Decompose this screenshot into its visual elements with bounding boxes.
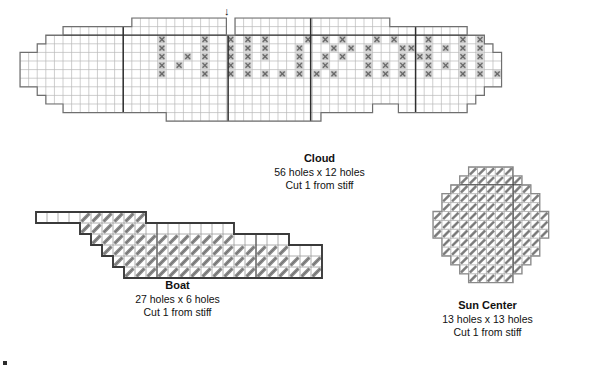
cloud-instruction: Cut 1 from stiff bbox=[237, 179, 402, 192]
sun-center-chart-svg bbox=[432, 166, 550, 284]
cloud-chart-svg bbox=[19, 17, 503, 122]
boat-chart-svg bbox=[35, 211, 334, 279]
cloud-pattern-chart: ↓ bbox=[19, 17, 503, 122]
cloud-dimensions: 56 holes x 12 holes bbox=[237, 166, 402, 179]
sun-center-title: Sun Center bbox=[405, 299, 570, 312]
sun-center-caption: Sun Center 13 holes x 13 holes Cut 1 fro… bbox=[405, 299, 570, 339]
cloud-caption: Cloud 56 holes x 12 holes Cut 1 from sti… bbox=[237, 152, 402, 192]
cloud-title: Cloud bbox=[237, 152, 402, 165]
sun-center-pattern-chart bbox=[432, 166, 550, 284]
boat-dimensions: 27 holes x 6 holes bbox=[95, 293, 260, 306]
cloud-center-arrow-icon: ↓ bbox=[224, 7, 230, 16]
page-corner-mark bbox=[3, 361, 7, 365]
boat-title: Boat bbox=[95, 279, 260, 292]
boat-instruction: Cut 1 from stiff bbox=[95, 306, 260, 319]
boat-caption: Boat 27 holes x 6 holes Cut 1 from stiff bbox=[95, 279, 260, 319]
boat-pattern-chart bbox=[35, 211, 334, 279]
pattern-sheet: ↓ Cloud 56 holes x 12 holes Cut 1 from s… bbox=[0, 0, 609, 371]
sun-center-dimensions: 13 holes x 13 holes bbox=[405, 313, 570, 326]
sun-center-instruction: Cut 1 from stiff bbox=[405, 326, 570, 339]
